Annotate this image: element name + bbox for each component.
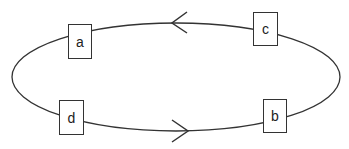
node-a: a — [68, 24, 92, 59]
cycle-diagram — [0, 0, 349, 149]
node-b: b — [263, 99, 287, 133]
node-label: c — [262, 21, 269, 37]
node-label: b — [271, 108, 279, 124]
node-d: d — [59, 100, 84, 135]
node-label: a — [76, 34, 84, 50]
node-label: d — [68, 110, 76, 126]
node-c: c — [253, 12, 278, 46]
